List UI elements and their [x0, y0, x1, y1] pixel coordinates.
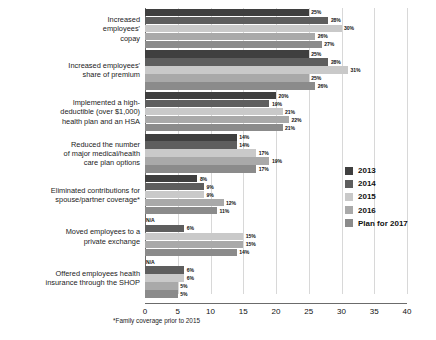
category-label: Increased employees' copay: [0, 15, 140, 43]
bar[interactable]: [145, 41, 322, 48]
bar[interactable]: [145, 274, 184, 281]
bar[interactable]: [145, 116, 289, 123]
bar[interactable]: [145, 249, 237, 256]
x-axis-line: [145, 303, 407, 304]
bar[interactable]: [145, 33, 315, 40]
legend-item[interactable]: 2016: [345, 206, 435, 215]
legend-swatch-icon: [345, 180, 353, 188]
bar-row: 25%: [145, 9, 407, 16]
bar-value-na: N/A: [146, 259, 155, 265]
bar-value-label: 21%: [285, 125, 295, 131]
bar-value-label: 12%: [226, 200, 236, 206]
bar[interactable]: [145, 183, 204, 190]
bar[interactable]: [145, 58, 328, 65]
bar[interactable]: [145, 100, 269, 107]
x-tick-label: 25: [304, 307, 313, 316]
legend-label: 2015: [358, 192, 376, 201]
bar-row: 15%: [145, 233, 407, 240]
bar-value-label: 22%: [292, 117, 302, 123]
legend-swatch-icon: [345, 206, 353, 214]
bar-row: 15%: [145, 241, 407, 248]
bar[interactable]: [145, 282, 178, 289]
bar-value-label: 25%: [311, 75, 321, 81]
bar-value-label: 25%: [311, 9, 321, 15]
bar[interactable]: [145, 66, 348, 73]
bar-value-label: 28%: [331, 17, 341, 23]
legend-item[interactable]: Plan for 2017: [345, 219, 435, 228]
bar-value-label: 9%: [206, 184, 213, 190]
bar[interactable]: [145, 199, 224, 206]
bar[interactable]: [145, 207, 217, 214]
x-tick-label: 15: [239, 307, 248, 316]
bar-row: 19%: [145, 100, 407, 107]
bar[interactable]: [145, 74, 309, 81]
bar-value-label: 26%: [318, 83, 328, 89]
bar-row: 21%: [145, 108, 407, 115]
bar-value-label: 21%: [285, 109, 295, 115]
bar-row: 20%: [145, 92, 407, 99]
bar[interactable]: [145, 290, 178, 297]
bar-value-label: 14%: [239, 142, 249, 148]
bar[interactable]: [145, 233, 243, 240]
bar[interactable]: [145, 82, 315, 89]
bar-value-label: 8%: [200, 176, 207, 182]
bar[interactable]: [145, 149, 256, 156]
bar-value-label: 27%: [324, 41, 334, 47]
bar-chart: Increased employees' copayIncreased empl…: [0, 0, 436, 340]
x-tick-label: 10: [206, 307, 215, 316]
bar-value-label: 15%: [246, 241, 256, 247]
bar[interactable]: [145, 165, 256, 172]
bar-value-label: 26%: [318, 33, 328, 39]
bar-group: N/A6%6%5%5%: [145, 258, 407, 298]
bar[interactable]: [145, 124, 283, 131]
bar-group: 20%19%21%22%21%: [145, 92, 407, 132]
bar-value-label: 9%: [206, 192, 213, 198]
bar[interactable]: [145, 266, 184, 273]
bar-value-label: 5%: [180, 291, 187, 297]
bar-row: 26%: [145, 33, 407, 40]
bar-value-label: 17%: [259, 166, 269, 172]
x-tick-label: 5: [176, 307, 180, 316]
bar-group: 25%28%30%26%27%: [145, 9, 407, 49]
legend-item[interactable]: 2013: [345, 166, 435, 175]
bar-row: 14%: [145, 134, 407, 141]
bar-value-label: 6%: [187, 267, 194, 273]
bar[interactable]: [145, 50, 309, 57]
bar[interactable]: [145, 92, 276, 99]
bar[interactable]: [145, 141, 237, 148]
bar[interactable]: [145, 134, 237, 141]
bar-value-label: 14%: [239, 249, 249, 255]
bar-row: 22%: [145, 116, 407, 123]
bar-value-label: 5%: [180, 283, 187, 289]
bar-value-label: 25%: [311, 51, 321, 57]
legend-item[interactable]: 2015: [345, 192, 435, 201]
category-label: Eliminated contributions for spouse/part…: [0, 186, 140, 205]
x-tick-label: 40: [403, 307, 412, 316]
x-tick-label: 35: [370, 307, 379, 316]
bar[interactable]: [145, 25, 342, 32]
bar[interactable]: [145, 241, 243, 248]
bar-row: 26%: [145, 82, 407, 89]
bar[interactable]: [145, 225, 184, 232]
category-label: Increased employees' share of premium: [0, 61, 140, 80]
bar-row: 5%: [145, 282, 407, 289]
bar-row: 14%: [145, 249, 407, 256]
legend-item[interactable]: 2014: [345, 179, 435, 188]
bar[interactable]: [145, 175, 197, 182]
bar-row: 25%: [145, 74, 407, 81]
bar-row: 5%: [145, 290, 407, 297]
bar[interactable]: [145, 17, 328, 24]
bar[interactable]: [145, 9, 309, 16]
category-label: Reduced the number of major medical/heal…: [0, 140, 140, 168]
bar-value-label: 19%: [272, 158, 282, 164]
legend-label: 2014: [358, 179, 376, 188]
bar-value-label: 14%: [239, 134, 249, 140]
bar-row: 28%: [145, 58, 407, 65]
bar-row: 14%: [145, 141, 407, 148]
legend-label: 2016: [358, 206, 376, 215]
bar[interactable]: [145, 157, 269, 164]
bar[interactable]: [145, 191, 204, 198]
bar-value-label: 28%: [331, 59, 341, 65]
bar-value-label: 30%: [344, 25, 354, 31]
bar[interactable]: [145, 108, 283, 115]
